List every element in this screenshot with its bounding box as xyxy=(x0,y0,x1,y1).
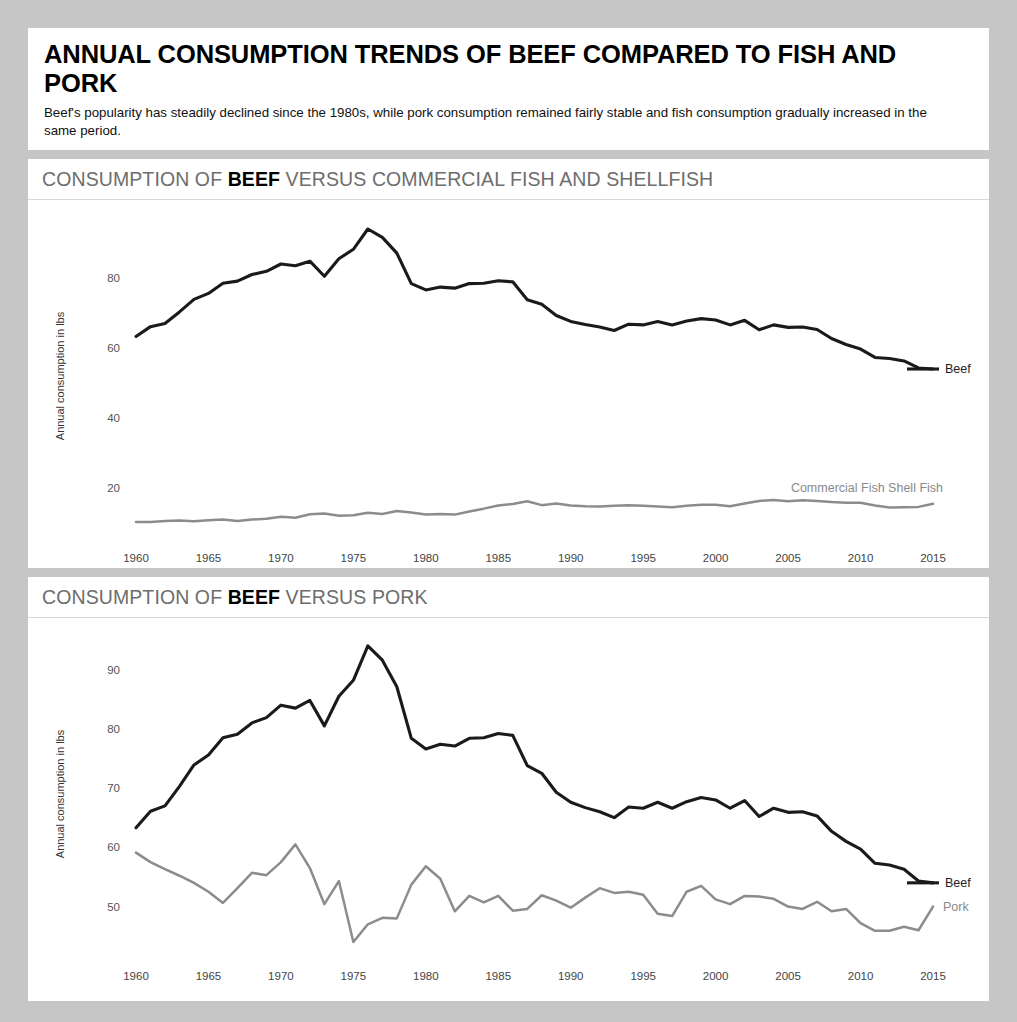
x-tick-label: 1995 xyxy=(630,970,656,982)
x-tick-label: 2010 xyxy=(848,970,874,982)
page-title: ANNUAL CONSUMPTION TRENDS OF BEEF COMPAR… xyxy=(44,40,924,97)
x-tick-label: 1980 xyxy=(413,552,439,564)
x-tick-label: 1985 xyxy=(485,552,511,564)
page-subtitle: Beef's popularity has steadily declined … xyxy=(44,104,949,140)
x-tick-label: 1960 xyxy=(123,970,149,982)
series-label-pork: Pork xyxy=(943,900,969,914)
y-tick-label: 60 xyxy=(107,342,120,354)
x-tick-label: 1970 xyxy=(268,552,294,564)
chart2-header-suffix: VERSUS PORK xyxy=(280,586,428,608)
x-tick-label: 2000 xyxy=(703,552,729,564)
chart-panel-beef-vs-pork: CONSUMPTION OF BEEF VERSUS PORK Annual c… xyxy=(28,577,989,1001)
x-tick-label: 2005 xyxy=(775,552,801,564)
chart1-header-prefix: CONSUMPTION OF xyxy=(42,168,228,190)
y-tick-label: 90 xyxy=(107,664,120,676)
x-tick-label: 1975 xyxy=(341,552,367,564)
chart2-body: Annual consumption in lbs506070809019601… xyxy=(28,618,989,1001)
series-label-commercial-fish-shell-fish: Commercial Fish Shell Fish xyxy=(791,481,943,495)
x-tick-label: 1980 xyxy=(413,970,439,982)
header-panel: ANNUAL CONSUMPTION TRENDS OF BEEF COMPAR… xyxy=(28,28,989,150)
y-tick-label: 80 xyxy=(107,723,120,735)
chart2-header-prefix: CONSUMPTION OF xyxy=(42,586,228,608)
infographic-page: ANNUAL CONSUMPTION TRENDS OF BEEF COMPAR… xyxy=(0,0,1017,1022)
chart1-body: Annual consumption in lbs204060801960196… xyxy=(28,200,989,568)
y-tick-label: 80 xyxy=(107,272,120,284)
x-tick-label: 2015 xyxy=(920,552,946,564)
y-tick-label: 40 xyxy=(107,412,120,424)
series-line-beef xyxy=(136,646,933,883)
chart2-header: CONSUMPTION OF BEEF VERSUS PORK xyxy=(28,577,989,618)
x-tick-label: 1985 xyxy=(485,970,511,982)
y-axis-title: Annual consumption in lbs xyxy=(54,729,66,858)
x-tick-label: 1965 xyxy=(196,970,222,982)
chart2-header-emphasis: BEEF xyxy=(228,586,280,608)
x-tick-label: 1990 xyxy=(558,552,584,564)
chart1-header-emphasis: BEEF xyxy=(228,168,280,190)
chart1-svg: Annual consumption in lbs204060801960196… xyxy=(28,200,989,568)
x-tick-label: 2015 xyxy=(920,970,946,982)
x-tick-label: 1995 xyxy=(630,552,656,564)
y-tick-label: 70 xyxy=(107,782,120,794)
chart1-header: CONSUMPTION OF BEEF VERSUS COMMERCIAL FI… xyxy=(28,159,989,200)
chart2-svg: Annual consumption in lbs506070809019601… xyxy=(28,618,989,1001)
series-line-commercial-fish-shell-fish xyxy=(136,500,933,522)
x-tick-label: 1975 xyxy=(341,970,367,982)
x-tick-label: 1960 xyxy=(123,552,149,564)
chart-panel-beef-vs-fish: CONSUMPTION OF BEEF VERSUS COMMERCIAL FI… xyxy=(28,159,989,568)
series-label-beef: Beef xyxy=(945,362,971,376)
x-tick-label: 1970 xyxy=(268,970,294,982)
y-axis-title: Annual consumption in lbs xyxy=(54,311,66,440)
x-tick-label: 2010 xyxy=(848,552,874,564)
x-tick-label: 2000 xyxy=(703,970,729,982)
chart1-header-suffix: VERSUS COMMERCIAL FISH AND SHELLFISH xyxy=(280,168,713,190)
series-line-beef xyxy=(136,229,933,369)
y-tick-label: 50 xyxy=(107,901,120,913)
x-tick-label: 1990 xyxy=(558,970,584,982)
x-tick-label: 2005 xyxy=(775,970,801,982)
y-tick-label: 60 xyxy=(107,841,120,853)
series-label-beef: Beef xyxy=(945,876,971,890)
x-tick-label: 1965 xyxy=(196,552,222,564)
y-tick-label: 20 xyxy=(107,482,120,494)
series-line-pork xyxy=(136,844,933,942)
